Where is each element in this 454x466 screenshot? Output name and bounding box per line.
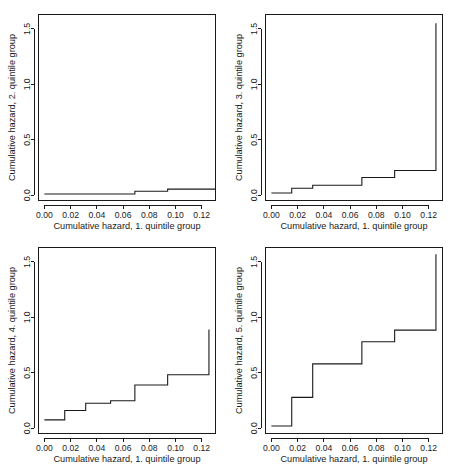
x-tick-label: 0.02 <box>62 210 79 220</box>
y-tick-label: 0.5 <box>250 367 260 379</box>
x-tick-label: 0.00 <box>263 210 280 220</box>
x-tick-label: 0.12 <box>420 210 437 220</box>
figure-canvas: 0.000.020.040.060.080.100.120.00.51.01.5… <box>0 0 454 466</box>
x-tick-label: 0.02 <box>289 443 306 453</box>
plot-top-left: 0.000.020.040.060.080.100.120.00.51.01.5… <box>0 0 227 233</box>
x-tick-label: 0.08 <box>141 210 158 220</box>
plot-box <box>266 15 443 201</box>
y-tick-label: 0.5 <box>250 134 260 146</box>
step-curve <box>44 330 209 420</box>
x-tick-label: 0.00 <box>263 443 280 453</box>
x-axis-title: Cumulative hazard, 1. quintile group <box>280 221 427 231</box>
x-tick-label: 0.10 <box>394 210 411 220</box>
x-tick-label: 0.06 <box>342 210 359 220</box>
x-tick-label: 0.06 <box>342 443 359 453</box>
y-tick-label: 0.0 <box>250 189 260 201</box>
panel-top-left: 0.000.020.040.060.080.100.120.00.51.01.5… <box>0 0 227 233</box>
y-tick-label: 0.5 <box>23 134 33 146</box>
x-tick-label: 0.04 <box>315 210 332 220</box>
plot-box <box>39 248 216 434</box>
x-tick-label: 0.06 <box>115 210 132 220</box>
panel-bottom-left: 0.000.020.040.060.080.100.120.00.51.01.5… <box>0 233 227 466</box>
y-axis-title: Cumulative hazard, 2. quintile group <box>7 34 17 181</box>
x-tick-label: 0.08 <box>368 210 385 220</box>
panel-bottom-right: 0.000.020.040.060.080.100.120.00.51.01.5… <box>227 233 454 466</box>
x-tick-label: 0.08 <box>368 443 385 453</box>
step-curve <box>271 254 436 426</box>
y-tick-label: 1.5 <box>250 23 260 35</box>
plot-box <box>39 15 216 201</box>
y-tick-label: 1.0 <box>250 78 260 90</box>
x-tick-label: 0.06 <box>115 443 132 453</box>
y-axis-title: Cumulative hazard, 5. quintile group <box>234 267 244 414</box>
y-tick-label: 1.0 <box>23 311 33 323</box>
x-tick-label: 0.02 <box>62 443 79 453</box>
step-curve <box>271 23 436 193</box>
plot-bottom-left: 0.000.020.040.060.080.100.120.00.51.01.5… <box>0 233 227 466</box>
y-tick-label: 0.0 <box>23 189 33 201</box>
y-tick-label: 1.0 <box>23 78 33 90</box>
step-curve <box>44 189 215 194</box>
plot-bottom-right: 0.000.020.040.060.080.100.120.00.51.01.5… <box>227 233 454 466</box>
plot-top-right: 0.000.020.040.060.080.100.120.00.51.01.5… <box>227 0 454 233</box>
y-tick-label: 1.5 <box>23 23 33 35</box>
y-tick-label: 0.0 <box>250 422 260 434</box>
x-tick-label: 0.12 <box>193 210 210 220</box>
x-tick-label: 0.10 <box>167 443 184 453</box>
y-tick-label: 1.5 <box>23 256 33 268</box>
panel-top-right: 0.000.020.040.060.080.100.120.00.51.01.5… <box>227 0 454 233</box>
x-axis-title: Cumulative hazard, 1. quintile group <box>53 454 200 464</box>
x-axis-title: Cumulative hazard, 1. quintile group <box>280 454 427 464</box>
y-tick-label: 0.5 <box>23 367 33 379</box>
x-tick-label: 0.12 <box>420 443 437 453</box>
y-tick-label: 1.5 <box>250 256 260 268</box>
x-tick-label: 0.04 <box>88 210 105 220</box>
x-tick-label: 0.08 <box>141 443 158 453</box>
x-tick-label: 0.10 <box>167 210 184 220</box>
y-tick-label: 1.0 <box>250 311 260 323</box>
x-tick-label: 0.00 <box>36 443 53 453</box>
y-tick-label: 0.0 <box>23 422 33 434</box>
x-tick-label: 0.04 <box>88 443 105 453</box>
x-tick-label: 0.04 <box>315 443 332 453</box>
x-axis-title: Cumulative hazard, 1. quintile group <box>53 221 200 231</box>
y-axis-title: Cumulative hazard, 4. quintile group <box>7 267 17 414</box>
x-tick-label: 0.00 <box>36 210 53 220</box>
x-tick-label: 0.12 <box>193 443 210 453</box>
x-tick-label: 0.10 <box>394 443 411 453</box>
y-axis-title: Cumulative hazard, 3. quintile group <box>234 34 244 181</box>
x-tick-label: 0.02 <box>289 210 306 220</box>
